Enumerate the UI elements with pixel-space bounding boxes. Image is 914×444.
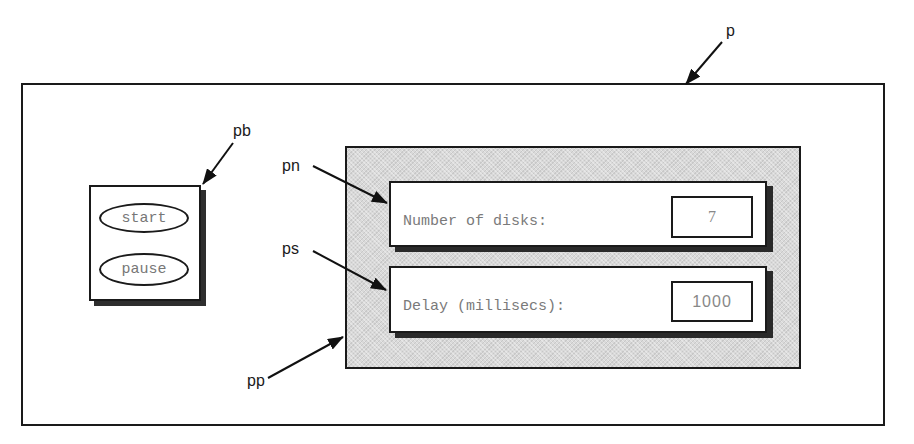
arrow-pp-icon <box>268 337 343 378</box>
arrow-pb-icon <box>203 143 233 184</box>
callout-arrows <box>0 0 914 444</box>
arrow-ps-icon <box>313 251 386 290</box>
arrow-p-icon <box>686 42 722 84</box>
arrow-pn-icon <box>313 166 387 203</box>
